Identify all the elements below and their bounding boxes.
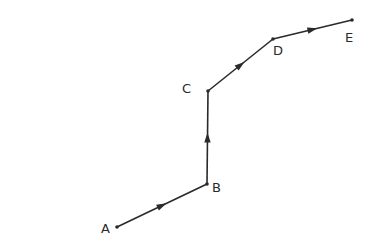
- path-diagram: A B C D E: [0, 0, 369, 247]
- path-segments: [117, 20, 352, 227]
- label-d: D: [273, 43, 283, 58]
- arrow-icon: [307, 25, 318, 34]
- point-labels: A B C D E: [101, 30, 353, 236]
- node-b: [205, 182, 209, 186]
- path-nodes: [115, 18, 354, 229]
- label-a: A: [101, 221, 110, 236]
- node-d: [271, 37, 275, 41]
- node-c: [206, 89, 210, 93]
- label-e: E: [345, 30, 353, 45]
- label-b: B: [212, 180, 221, 195]
- node-e: [350, 18, 354, 22]
- label-c: C: [182, 81, 191, 96]
- arrow-icon: [156, 200, 168, 210]
- arrow-icon: [204, 132, 211, 142]
- node-a: [115, 225, 119, 229]
